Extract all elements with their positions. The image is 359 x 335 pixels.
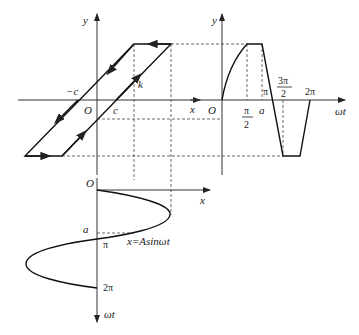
left-x-label: x [189, 103, 195, 115]
arrow-left-upper [110, 44, 134, 71]
tick-3pi-over-2-num: 3π [278, 75, 288, 86]
right-origin-label: O [208, 104, 216, 116]
neg-c-label: −c [66, 85, 78, 97]
tick-a: a [259, 104, 265, 116]
bottom-wt-label: ωt [104, 308, 116, 320]
right-x-label: ωt [335, 105, 347, 117]
arrow-right-lower [62, 134, 83, 156]
tick-pi-over-2-num: π [244, 105, 249, 116]
arrow-right-upper [116, 77, 138, 100]
left-origin-label: O [84, 104, 92, 116]
left-y-label: y [82, 14, 88, 26]
tick-pi: π [263, 86, 268, 97]
tick-pi-over-2-den: 2 [244, 119, 249, 130]
c-label: c [113, 104, 118, 116]
bottom-origin-label: O [86, 177, 94, 189]
bottom-2pi-label: 2π [103, 282, 113, 293]
bottom-x-label: x [199, 194, 205, 206]
bottom-pi-label: π [103, 239, 108, 250]
sine-curve-label: x=Asinωt [126, 235, 171, 247]
tick-2pi: 2π [305, 86, 315, 97]
input-sine-plot: O x ωt a π 2π x=Asinωt [26, 177, 210, 322]
diagram-canvas: y x O −c c k y ωt O π 2 a π 3π 2 [0, 0, 359, 335]
slope-k-label: k [138, 78, 144, 90]
output-waveform-plot: y ωt O π 2 a π 3π 2 2π [190, 14, 347, 175]
bottom-a-label: a [83, 223, 89, 235]
arrow-left-lower [58, 100, 78, 120]
right-y-label: y [211, 14, 217, 26]
tick-3pi-over-2-den: 2 [281, 88, 286, 99]
